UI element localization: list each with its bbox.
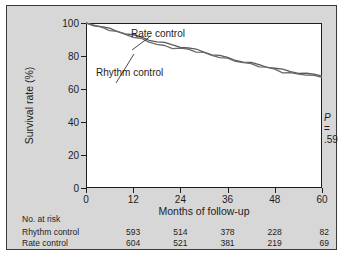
risk-cell: 69 [303, 238, 329, 248]
x-tick-label: 12 [128, 194, 139, 205]
x-tick-mark [228, 188, 229, 193]
rate-control-label: Rate control [131, 28, 185, 39]
risk-cell: 604 [114, 238, 140, 248]
x-tick-label: 0 [83, 194, 89, 205]
x-tick-mark [275, 188, 276, 193]
risk-table-title: No. at risk [22, 214, 60, 224]
p-value-annotation: P = .59 [324, 112, 338, 145]
risk-row-label: Rate control [22, 238, 68, 248]
risk-cell: 219 [256, 238, 282, 248]
risk-cell: 381 [209, 238, 235, 248]
p-symbol: P [324, 112, 331, 123]
risk-row-label: Rhythm control [22, 227, 79, 237]
y-tick-label: 100 [62, 18, 79, 29]
y-tick-label: 40 [68, 117, 79, 128]
x-tick-mark [133, 188, 134, 193]
x-tick-mark [180, 188, 181, 193]
x-tick-label: 36 [222, 194, 233, 205]
plot-area: 020406080100 01224364860 P = .59 [86, 23, 322, 188]
figure-inner: 020406080100 01224364860 P = .59 Rate co… [8, 7, 335, 248]
x-tick-mark [322, 188, 323, 193]
risk-cell: 82 [303, 227, 329, 237]
risk-cell: 521 [161, 238, 187, 248]
risk-cell: 228 [256, 227, 282, 237]
risk-table-row: Rate control 60452138121969 [22, 238, 328, 249]
y-axis-label: Survival rate (%) [22, 23, 36, 188]
figure-panel: 020406080100 01224364860 P = .59 Rate co… [6, 5, 337, 250]
x-tick-label: 60 [316, 194, 327, 205]
risk-cell: 514 [161, 227, 187, 237]
risk-cell: 593 [114, 227, 140, 237]
risk-cell: 378 [209, 227, 235, 237]
y-tick-label: 20 [68, 150, 79, 161]
y-tick-label: 60 [68, 84, 79, 95]
rhythm-control-label: Rhythm control [96, 67, 163, 78]
risk-table-row: Rhythm control 59351437822882 [22, 227, 328, 238]
p-value-text: = .59 [324, 123, 338, 145]
x-tick-label: 24 [175, 194, 186, 205]
x-axis-label: Months of follow-up [86, 205, 322, 217]
y-tick-label: 0 [73, 183, 79, 194]
x-tick-mark [86, 188, 87, 193]
y-tick-label: 80 [68, 51, 79, 62]
survival-curves [86, 23, 322, 188]
x-tick-label: 48 [269, 194, 280, 205]
